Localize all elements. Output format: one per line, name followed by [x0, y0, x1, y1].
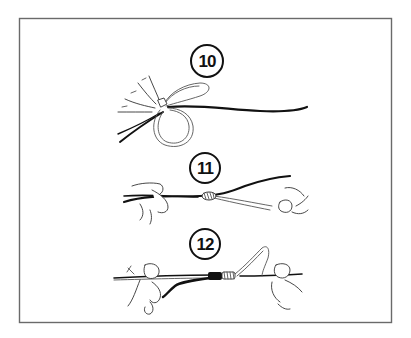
- step-12: 12: [114, 229, 302, 314]
- step-12-knot: [208, 272, 235, 280]
- step-10: 10: [118, 45, 307, 146]
- step-11-knot: [202, 192, 216, 200]
- step-11: 11: [124, 153, 308, 224]
- step-11-badge: 11: [190, 153, 220, 183]
- step-12-number: 12: [197, 235, 214, 254]
- knot-diagram: 10 11: [0, 0, 411, 338]
- step-10-number: 10: [199, 52, 216, 71]
- step-10-badge: 10: [191, 45, 223, 77]
- step-11-number: 11: [197, 159, 214, 178]
- step-12-badge: 12: [190, 229, 220, 259]
